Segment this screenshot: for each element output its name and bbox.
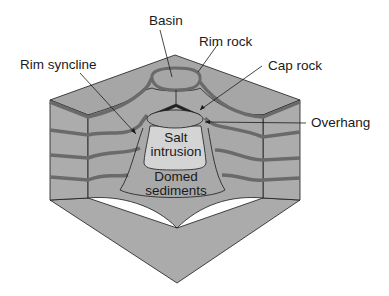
label-salt-intrusion-line1: Salt xyxy=(145,131,207,145)
label-rim-syncline: Rim syncline xyxy=(20,58,97,72)
rim-rock-ring xyxy=(152,68,200,90)
overhang xyxy=(147,110,203,128)
label-salt-intrusion: Salt intrusion xyxy=(145,131,207,159)
label-domed-sediments: Domed sediments xyxy=(140,170,212,198)
label-salt-intrusion-line2: intrusion xyxy=(145,145,207,159)
label-domed-sediments-line1: Domed xyxy=(140,170,212,184)
label-cap-rock: Cap rock xyxy=(268,59,322,73)
label-domed-sediments-line2: sediments xyxy=(140,184,212,198)
label-rim-rock: Rim rock xyxy=(199,35,252,49)
label-overhang: Overhang xyxy=(311,116,370,130)
label-basin: Basin xyxy=(149,14,183,28)
